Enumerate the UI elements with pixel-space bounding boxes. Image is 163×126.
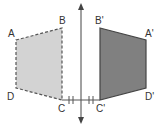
arrow-up-icon [78,3,84,10]
image-shape [100,28,146,100]
original-shape [16,28,62,100]
label-b-prime: B' [95,16,104,26]
arrow-down-icon [78,117,84,124]
label-b: B [59,16,66,26]
label-d-prime: D' [145,92,154,102]
label-c-prime: C' [96,104,105,114]
label-c: C [58,104,65,114]
label-a-prime: A' [145,29,154,39]
label-a: A [8,29,15,39]
label-d: D [7,92,14,102]
reflection-diagram [0,0,163,126]
